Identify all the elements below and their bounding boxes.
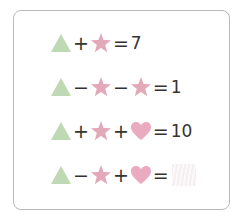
triangle-icon (50, 33, 72, 53)
result-value: 7 (131, 32, 142, 54)
equals-sign: = (113, 32, 129, 54)
equation-row-3: + + = 10 (50, 120, 192, 142)
plus-sign: + (73, 120, 89, 142)
plus-sign: + (113, 120, 129, 142)
star-icon (90, 77, 112, 97)
equals-sign: = (153, 76, 169, 98)
answer-blank[interactable] (172, 164, 196, 186)
result-value: 1 (171, 76, 182, 98)
star-icon (130, 77, 152, 97)
minus-sign: − (113, 76, 129, 98)
star-icon (90, 121, 112, 141)
heart-icon (130, 121, 152, 141)
equation-row-2: − − = 1 (50, 76, 182, 98)
result-value: 10 (171, 120, 193, 142)
minus-sign: − (73, 76, 89, 98)
plus-sign: + (113, 164, 129, 186)
triangle-icon (50, 77, 72, 97)
equation-row-1: + = 7 (50, 32, 142, 54)
triangle-icon (50, 165, 72, 185)
equals-sign: = (153, 120, 169, 142)
equals-sign: = (153, 164, 169, 186)
equation-row-4: − + = (50, 164, 196, 186)
heart-icon (130, 165, 152, 185)
triangle-icon (50, 121, 72, 141)
plus-sign: + (73, 32, 89, 54)
star-icon (90, 165, 112, 185)
minus-sign: − (73, 164, 89, 186)
star-icon (90, 33, 112, 53)
